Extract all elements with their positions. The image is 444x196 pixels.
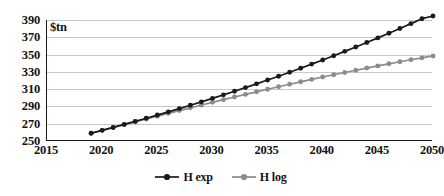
legend-marker-icon [231, 172, 257, 182]
data-point-h-exp-5 [144, 116, 149, 121]
series-line-h-exp [91, 16, 433, 133]
y-axis-tick-labels: 250270290310330350370390 [0, 0, 40, 196]
data-point-h-log-20 [309, 77, 314, 82]
data-point-h-log-12 [221, 97, 226, 102]
data-point-h-exp-6 [155, 113, 160, 118]
data-point-h-exp-31 [431, 14, 436, 19]
data-point-h-exp-23 [342, 49, 347, 54]
data-point-h-exp-0 [89, 131, 94, 136]
data-point-h-exp-2 [111, 125, 116, 130]
x-axis-tick-2020: 2020 [89, 144, 113, 157]
data-point-h-exp-27 [386, 31, 391, 36]
data-point-h-exp-10 [199, 99, 204, 104]
data-point-h-exp-4 [133, 119, 138, 124]
data-point-h-log-15 [254, 89, 259, 94]
data-point-h-exp-20 [309, 62, 314, 67]
y-axis-tick-390: 390 [6, 14, 40, 27]
data-point-h-exp-15 [254, 81, 259, 86]
y-axis-tick-270: 270 [6, 118, 40, 131]
x-axis-tick-2050: 2050 [420, 144, 444, 157]
data-point-h-log-24 [353, 68, 358, 73]
data-point-h-log-21 [320, 75, 325, 80]
x-axis-tick-2030: 2030 [199, 144, 223, 157]
data-point-h-exp-21 [320, 57, 325, 62]
data-point-h-exp-7 [166, 109, 171, 114]
data-point-h-exp-17 [276, 74, 281, 79]
legend-entry-h-exp[interactable]: H exp [154, 171, 212, 183]
data-point-h-exp-12 [221, 92, 226, 97]
data-point-h-exp-18 [287, 70, 292, 75]
data-point-h-log-31 [431, 54, 436, 59]
data-point-h-exp-8 [177, 106, 182, 111]
plot-area [46, 20, 432, 141]
y-axis-tick-290: 290 [6, 100, 40, 113]
data-point-h-exp-28 [397, 26, 402, 31]
data-point-h-log-14 [243, 92, 248, 97]
chart-legend: H expH log [0, 171, 441, 183]
x-axis-tick-2025: 2025 [144, 144, 168, 157]
legend-label: H exp [183, 171, 212, 183]
data-point-h-log-30 [420, 55, 425, 60]
data-point-h-exp-11 [210, 96, 215, 101]
data-point-h-log-25 [364, 66, 369, 71]
data-point-h-log-26 [375, 63, 380, 68]
data-point-h-log-18 [287, 82, 292, 87]
data-point-h-log-17 [276, 84, 281, 89]
data-point-h-exp-9 [188, 103, 193, 108]
x-axis-tick-2015: 2015 [34, 144, 58, 157]
data-point-h-exp-24 [353, 45, 358, 50]
data-point-h-exp-25 [364, 40, 369, 45]
data-point-h-exp-19 [298, 66, 303, 71]
data-point-h-log-22 [331, 72, 336, 77]
data-point-h-exp-16 [265, 78, 270, 83]
data-point-h-exp-26 [375, 35, 380, 40]
y-axis-tick-350: 350 [6, 49, 40, 62]
data-point-h-exp-22 [331, 53, 336, 58]
data-point-h-exp-29 [408, 21, 413, 26]
data-point-h-exp-30 [420, 16, 425, 21]
x-axis-tick-2045: 2045 [365, 144, 389, 157]
data-point-h-log-29 [408, 57, 413, 62]
data-point-h-log-28 [397, 59, 402, 64]
data-point-h-log-27 [386, 61, 391, 66]
data-point-h-exp-1 [100, 128, 105, 133]
y-axis-tick-330: 330 [6, 66, 40, 79]
data-point-h-log-16 [265, 87, 270, 92]
data-point-h-log-13 [232, 95, 237, 100]
legend-label: H log [260, 171, 287, 183]
y-axis-unit-label: $tn [50, 20, 67, 34]
legend-entry-h-log[interactable]: H log [231, 171, 287, 183]
plot-series-svg [47, 20, 433, 141]
data-point-h-log-19 [298, 79, 303, 84]
series-line-h-log [91, 56, 433, 133]
data-point-h-exp-13 [232, 89, 237, 94]
x-axis-tick-labels: 20152020202520302035204020452050 [0, 144, 441, 162]
y-axis-tick-310: 310 [6, 83, 40, 96]
legend-marker-icon [154, 172, 180, 182]
y-axis-tick-370: 370 [6, 31, 40, 44]
x-axis-tick-2040: 2040 [310, 144, 334, 157]
x-axis-tick-2035: 2035 [254, 144, 278, 157]
data-point-h-exp-3 [122, 122, 127, 127]
data-point-h-exp-14 [243, 85, 248, 90]
data-point-h-log-23 [342, 70, 347, 75]
